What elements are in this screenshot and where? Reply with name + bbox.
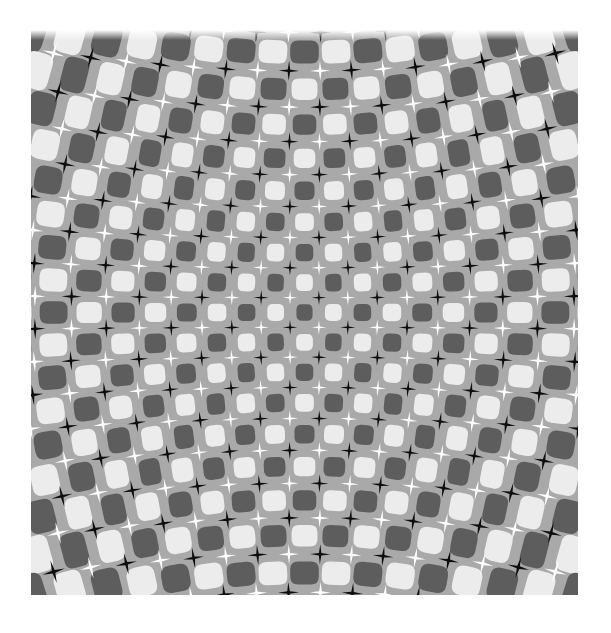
illusion-canvas <box>0 0 611 633</box>
illusion-figure: Distorted checkerboard optical illusion … <box>0 0 611 633</box>
